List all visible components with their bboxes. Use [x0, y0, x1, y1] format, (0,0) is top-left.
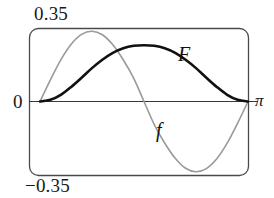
series-annotation-f: f — [156, 120, 162, 140]
chart-figure: 0.35 −0.35 0 π F f — [0, 0, 274, 198]
series-annotation-F: F — [178, 44, 190, 64]
plot-area — [0, 0, 274, 198]
